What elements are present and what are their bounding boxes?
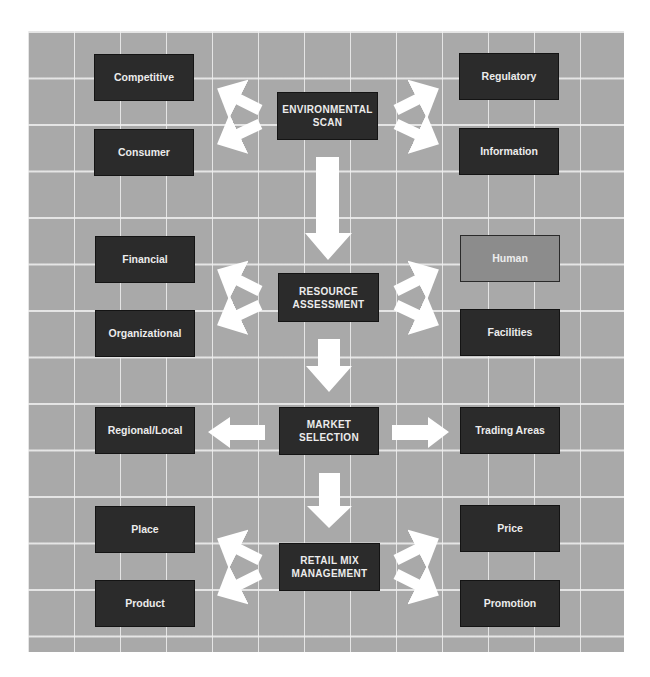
factor-organizational: Organizational bbox=[95, 310, 195, 357]
factor-label: Financial bbox=[122, 253, 168, 267]
factor-regulatory: Regulatory bbox=[459, 53, 559, 100]
factor-label: Consumer bbox=[118, 146, 170, 160]
stage-label: MARKET SELECTION bbox=[299, 418, 359, 444]
factor-trading-areas: Trading Areas bbox=[460, 407, 560, 454]
factor-consumer: Consumer bbox=[94, 129, 194, 176]
stage-retail-mix-management: RETAIL MIX MANAGEMENT bbox=[279, 543, 380, 591]
stage-label: RESOURCE ASSESSMENT bbox=[293, 285, 365, 311]
factor-label: Information bbox=[480, 145, 538, 159]
factor-label: Product bbox=[125, 597, 165, 611]
factor-price: Price bbox=[460, 505, 560, 552]
factor-label: Human bbox=[492, 252, 528, 266]
stage-market-selection: MARKET SELECTION bbox=[279, 407, 379, 455]
factor-label: Trading Areas bbox=[475, 424, 545, 438]
stage-label: RETAIL MIX MANAGEMENT bbox=[292, 554, 368, 580]
stage-environmental-scan: ENVIRONMENTAL SCAN bbox=[277, 92, 378, 140]
factor-label: Regional/Local bbox=[108, 424, 183, 438]
stage-resource-assessment: RESOURCE ASSESSMENT bbox=[278, 273, 379, 322]
factor-facilities: Facilities bbox=[460, 309, 560, 356]
factor-regional-local: Regional/Local bbox=[95, 407, 195, 454]
factor-label: Organizational bbox=[109, 327, 182, 341]
factor-label: Regulatory bbox=[482, 70, 537, 84]
factor-place: Place bbox=[95, 506, 195, 553]
factor-information: Information bbox=[459, 128, 559, 175]
factor-promotion: Promotion bbox=[460, 580, 560, 627]
factor-label: Competitive bbox=[114, 71, 174, 85]
factor-label: Price bbox=[497, 522, 523, 536]
factor-human: Human bbox=[460, 235, 560, 282]
factor-label: Facilities bbox=[488, 326, 533, 340]
factor-competitive: Competitive bbox=[94, 54, 194, 101]
stage-label: ENVIRONMENTAL SCAN bbox=[282, 103, 372, 129]
factor-financial: Financial bbox=[95, 236, 195, 283]
factor-label: Place bbox=[131, 523, 158, 537]
factor-product: Product bbox=[95, 580, 195, 627]
factor-label: Promotion bbox=[484, 597, 537, 611]
